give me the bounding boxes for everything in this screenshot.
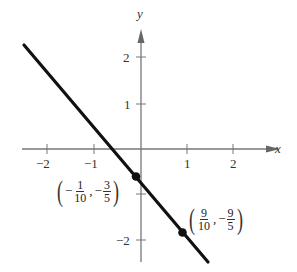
point-2-y-sign: − — [218, 211, 225, 227]
point-1-marker — [132, 172, 141, 181]
x-tick-label: −2 — [36, 157, 50, 170]
point-1-y-fraction: 3 5 — [103, 179, 111, 204]
y-axis-arrow-icon — [138, 29, 145, 43]
point-2-y-fraction: 9 5 — [227, 207, 235, 232]
x-axis-label: x — [275, 141, 281, 157]
y-tick-label: 1 — [124, 98, 131, 111]
x-tick-label: −1 — [84, 157, 98, 170]
point-2-marker — [178, 228, 187, 237]
y-tick-label: 2 — [123, 51, 130, 64]
x-tick-label: 2 — [230, 157, 237, 170]
y-axis-label: y — [137, 6, 143, 22]
point-1-x-fraction: 1 10 — [73, 179, 87, 204]
point-1-label: ( − 1 10 , − 3 5 ) — [55, 176, 121, 206]
point-2-x-fraction: 9 10 — [197, 207, 211, 232]
point-1-x-sign: − — [65, 183, 72, 199]
y-tick-label: −2 — [116, 234, 130, 247]
x-tick-label: 1 — [184, 157, 191, 170]
point-1-y-sign: − — [95, 183, 102, 199]
coordinate-plot — [0, 0, 297, 272]
point-2-label: ( 9 10 , − 9 5 ) — [187, 204, 245, 234]
